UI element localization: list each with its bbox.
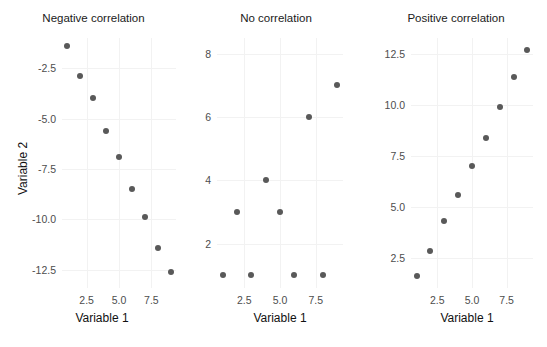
y-tick-label: 2.5	[390, 252, 405, 264]
x-tick-label: 2.5	[237, 294, 252, 306]
gridline-horizontal	[62, 68, 176, 69]
x-tick-label: 2.5	[430, 294, 445, 306]
gridline-horizontal	[217, 180, 343, 181]
scatter-point	[320, 272, 326, 278]
gridline-horizontal	[62, 219, 176, 220]
scatter-point	[306, 114, 312, 120]
y-tick-label: -7.5	[38, 163, 56, 175]
scatter-point	[155, 245, 161, 251]
scatter-point	[414, 273, 420, 279]
y-tick-label: 7.5	[390, 150, 405, 162]
y-tick-label: 5.0	[390, 201, 405, 213]
y-tick-label: 12.5	[385, 48, 405, 60]
gridline-horizontal	[62, 119, 176, 120]
x-axis-title-no-correlation: Variable 1	[201, 311, 359, 325]
gridline-vertical	[244, 38, 245, 288]
scatter-point	[455, 192, 461, 198]
gridline-vertical	[151, 38, 152, 288]
scatter-point	[168, 269, 174, 275]
gridline-vertical	[437, 38, 438, 288]
y-tick-label: 2	[205, 238, 211, 250]
x-tick-label: 7.5	[499, 294, 514, 306]
gridline-horizontal	[217, 117, 343, 118]
y-tick-label: -2.5	[38, 62, 56, 74]
gridline-horizontal	[217, 244, 343, 245]
scatter-point	[263, 177, 269, 183]
scatter-point	[64, 43, 70, 49]
scatter-point	[248, 272, 254, 278]
gridline-horizontal	[62, 270, 176, 271]
x-axis-title-positive: Variable 1	[387, 311, 547, 325]
panel-no-correlation: No correlation Variable 1 24682.55.07.5	[187, 0, 365, 347]
panel-negative-correlation: Negative correlation Variable 2 Variable…	[0, 0, 187, 347]
x-tick-label: 2.5	[79, 294, 94, 306]
scatter-point	[129, 186, 135, 192]
y-tick-label: -12.5	[32, 264, 56, 276]
gridline-horizontal	[411, 156, 533, 157]
scatter-point	[427, 248, 433, 254]
scatter-point	[277, 209, 283, 215]
scatter-point	[103, 128, 109, 134]
scatter-point	[220, 272, 226, 278]
gridline-vertical	[507, 38, 508, 288]
panel-positive-correlation: Positive correlation Variable 1 2.55.07.…	[365, 0, 547, 347]
gridline-vertical	[316, 38, 317, 288]
gridline-horizontal	[411, 207, 533, 208]
scatter-point	[524, 47, 530, 53]
y-tick-label: 4	[205, 174, 211, 186]
x-tick-label: 7.5	[144, 294, 159, 306]
gridline-horizontal	[411, 54, 533, 55]
x-tick-label: 5.0	[273, 294, 288, 306]
y-tick-label: -10.0	[32, 213, 56, 225]
scatter-point	[483, 135, 489, 141]
scatter-point	[441, 218, 447, 224]
gridline-horizontal	[217, 54, 343, 55]
panel-title-no-correlation: No correlation	[187, 12, 365, 24]
panel-title-positive: Positive correlation	[365, 12, 547, 24]
scatter-point	[334, 82, 340, 88]
scatter-point	[90, 95, 96, 101]
plot-area-no-correlation	[217, 38, 343, 288]
plot-area-positive	[411, 38, 533, 288]
y-axis-title: Variable 2	[16, 142, 30, 195]
gridline-vertical	[87, 38, 88, 288]
panel-title-negative: Negative correlation	[0, 12, 187, 24]
gridline-horizontal	[62, 169, 176, 170]
gridline-vertical	[119, 38, 120, 288]
y-tick-label: 10.0	[385, 99, 405, 111]
scatterplot-figure: Negative correlation Variable 2 Variable…	[0, 0, 547, 347]
scatter-point	[511, 74, 517, 80]
scatter-point	[77, 73, 83, 79]
x-axis-title-negative: Variable 1	[28, 311, 176, 325]
scatter-point	[234, 209, 240, 215]
scatter-point	[116, 154, 122, 160]
x-tick-label: 5.0	[112, 294, 127, 306]
plot-area-negative	[62, 38, 176, 288]
gridline-horizontal	[411, 105, 533, 106]
scatter-point	[497, 104, 503, 110]
y-tick-label: 6	[205, 111, 211, 123]
scatter-point	[469, 163, 475, 169]
y-tick-label: -5.0	[38, 113, 56, 125]
scatter-point	[291, 272, 297, 278]
y-tick-label: 8	[205, 48, 211, 60]
gridline-horizontal	[411, 258, 533, 259]
x-tick-label: 5.0	[465, 294, 480, 306]
gridline-vertical	[280, 38, 281, 288]
x-tick-label: 7.5	[308, 294, 323, 306]
